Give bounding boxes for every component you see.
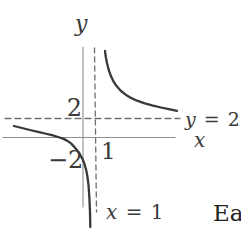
left-branch-curve [14,126,90,227]
asymptote-var-y: y [185,108,197,130]
page-text-fragment: Ea [213,202,241,225]
right-branch-curve [105,51,177,111]
horizontal-asymptote-label: y = 2 [185,110,241,129]
asymptote-var-x: x [106,200,118,224]
vertical-asymptote-line [95,48,97,212]
tick-label-x-1: 1 [101,140,116,163]
vertical-asymptote-label: x = 1 [106,202,164,222]
asymptote-eq-1: = 1 [118,200,164,224]
tick-label-neg-2: −2 [48,148,83,172]
function-graph-figure: y x 2 −2 1 y = 2 x = 1 Ea [0,0,241,229]
asymptote-eq-2: = 2 [197,108,241,130]
x-axis-label: x [194,130,205,150]
tick-label-y-2: 2 [64,96,82,120]
y-axis-label: y [75,13,87,35]
